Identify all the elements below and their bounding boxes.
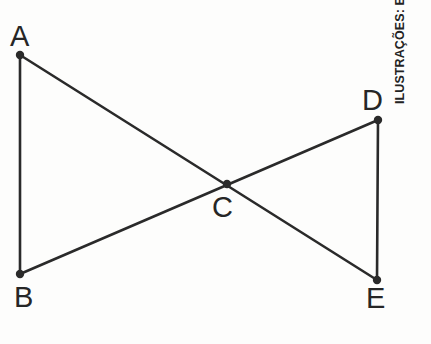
vertex-dot-d bbox=[374, 116, 382, 124]
vertex-dot-a bbox=[16, 51, 24, 59]
vertex-label-a: A bbox=[10, 22, 29, 51]
vertex-label-d: D bbox=[362, 86, 383, 115]
vertex-dot-c bbox=[223, 180, 231, 188]
vertex-dot-b bbox=[16, 270, 24, 278]
segment-ae bbox=[20, 55, 377, 280]
vertex-label-e: E bbox=[366, 284, 385, 313]
segments-group bbox=[20, 55, 378, 280]
illustration-credit: ILUSTRAÇÕES: EDITORIA DE ARTE bbox=[389, 0, 411, 109]
segment-bd bbox=[20, 120, 378, 274]
segment-de bbox=[377, 120, 378, 280]
geometry-figure: A B C D E ILUSTRAÇÕES: EDITORIA DE ARTE bbox=[0, 0, 431, 344]
vertex-label-c: C bbox=[212, 193, 233, 222]
vertex-label-b: B bbox=[14, 283, 33, 312]
